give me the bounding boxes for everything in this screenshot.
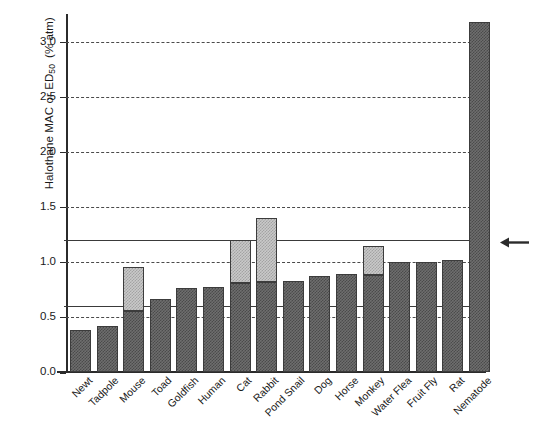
bar-group[interactable] bbox=[283, 14, 304, 372]
bar-group[interactable] bbox=[97, 14, 118, 372]
bar-segment-upper bbox=[230, 240, 251, 283]
y-axis-tick-label: 3.0 bbox=[40, 36, 56, 48]
bar-segment-upper bbox=[363, 246, 384, 275]
bar-group[interactable] bbox=[256, 14, 277, 372]
x-axis-tick-label: Nematode bbox=[485, 340, 528, 383]
bar-group[interactable] bbox=[389, 14, 410, 372]
y-axis-tick-label: 1.5 bbox=[40, 201, 56, 213]
y-axis-tick-label: 2.0 bbox=[40, 146, 56, 158]
bar-series bbox=[66, 14, 486, 372]
bar-segment-lower bbox=[336, 274, 357, 372]
plot-area: 0.00.51.01.52.02.53.0 bbox=[66, 14, 486, 372]
bar-segment-lower bbox=[469, 22, 490, 372]
bar-group[interactable] bbox=[70, 14, 91, 372]
bar-group[interactable] bbox=[150, 14, 171, 372]
y-axis-tick-label: 2.5 bbox=[40, 91, 56, 103]
bar-segment-lower bbox=[70, 330, 91, 372]
x-axis-tick-labels: NewtTadpoleMouseToadGoldfishHumanCatRabb… bbox=[66, 374, 496, 429]
bar-group[interactable] bbox=[416, 14, 437, 372]
bar-segment-upper bbox=[256, 218, 277, 282]
y-axis-title-subscript: 50 bbox=[47, 64, 57, 74]
bar-group[interactable] bbox=[203, 14, 224, 372]
bar-group[interactable] bbox=[363, 14, 384, 372]
human-mac-arrow-icon bbox=[500, 236, 530, 249]
y-axis-tick-label: 1.0 bbox=[40, 256, 56, 268]
bar-segment-upper bbox=[123, 267, 144, 311]
y-axis-tick-label: 0.0 bbox=[40, 366, 56, 378]
bar-group[interactable] bbox=[230, 14, 251, 372]
halothane-potency-bar-chart: Halothane MAC or ED50(% atm) 0.00.51.01.… bbox=[0, 0, 538, 429]
bar-segment-lower bbox=[256, 282, 277, 372]
bar-group[interactable] bbox=[336, 14, 357, 372]
bar-group[interactable] bbox=[123, 14, 144, 372]
bar-group[interactable] bbox=[469, 14, 490, 372]
bar-group[interactable] bbox=[442, 14, 463, 372]
bar-group[interactable] bbox=[176, 14, 197, 372]
bar-group[interactable] bbox=[309, 14, 330, 372]
y-axis-tick-label: 0.5 bbox=[40, 311, 56, 323]
